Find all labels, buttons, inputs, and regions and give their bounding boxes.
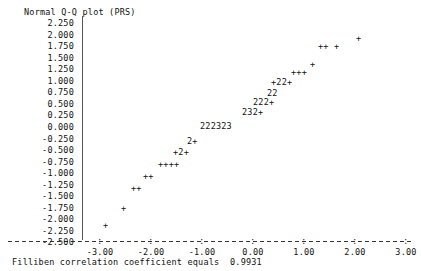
y-axis-tick-label: -2.250: [12, 227, 74, 236]
page-title: Normal Q-Q plot (PRS): [24, 8, 136, 17]
y-axis-tick-label: -0.250: [12, 135, 74, 144]
y-axis-tick-label: -2.000: [12, 215, 74, 224]
data-point-glyph-row: ++: [131, 184, 142, 193]
qq-plot-canvas: Normal Q-Q plot (PRS) 2.2502.0001.7501.5…: [0, 0, 421, 271]
y-axis-tick-label: -2.500: [12, 238, 74, 247]
data-point-glyph-row: ++ +: [318, 42, 339, 51]
data-point-glyph-row: +: [121, 204, 126, 213]
data-point-glyph-row: +++: [291, 68, 307, 77]
data-point-glyph-row: 22: [267, 89, 278, 98]
y-axis-tick-label: -1.750: [12, 204, 74, 213]
x-axis-tick-mark: :: [403, 237, 404, 246]
y-axis-tick-label: -1.500: [12, 192, 74, 201]
x-axis-tick-label: 3.00: [395, 248, 416, 257]
data-point-glyph-row: 222323: [200, 122, 232, 131]
y-axis-tick-label: -0.500: [12, 146, 74, 155]
y-axis-line: [82, 16, 83, 240]
x-axis-tick-label: 0.00: [242, 248, 263, 257]
y-axis-tick-label: 2.250: [12, 19, 74, 28]
filliben-coefficient-note: Filliben correlation coefficient equals …: [12, 258, 262, 267]
data-point-glyph-row: ++: [143, 172, 154, 181]
y-axis-tick-label: 1.500: [12, 54, 74, 63]
data-point-glyph-row: +: [310, 60, 315, 69]
x-axis-tick-mark: :: [199, 237, 200, 246]
y-axis-tick-label: 1.750: [12, 42, 74, 51]
data-point-glyph-row: +: [356, 34, 361, 43]
x-axis-tick-label: 1.00: [293, 248, 314, 257]
x-axis-tick-mark: :: [352, 237, 353, 246]
y-axis-tick-label: 0.500: [12, 100, 74, 109]
x-axis-tick-label: -2.00: [138, 248, 165, 257]
data-point-glyph-row: +22+: [271, 78, 292, 87]
x-axis-tick-label: -3.00: [87, 248, 114, 257]
y-axis-tick-label: 0.250: [12, 111, 74, 120]
x-axis-tick-label: -1.00: [189, 248, 216, 257]
x-axis-tick-mark: :: [97, 237, 98, 246]
y-axis-tick-label: -1.000: [12, 169, 74, 178]
data-point-glyph-row: 2+: [187, 137, 198, 146]
x-axis-tick-mark: :: [301, 237, 302, 246]
y-axis-tick-label: 0.750: [12, 88, 74, 97]
y-axis-tick-label: 1.250: [12, 65, 74, 74]
data-point-glyph-row: 222+: [253, 98, 274, 107]
x-axis-tick-mark: :: [250, 237, 251, 246]
y-axis-tick-label: 1.000: [12, 77, 74, 86]
x-axis-tick-mark: :: [148, 237, 149, 246]
y-axis-tick-label: 0.000: [12, 123, 74, 132]
data-point-glyph-row: 232+: [242, 108, 263, 117]
y-axis-tick-label: 2.000: [12, 31, 74, 40]
data-point-glyph-row: +: [103, 221, 108, 230]
y-axis-tick-label: -1.250: [12, 181, 74, 190]
x-axis-tick-label: 2.00: [344, 248, 365, 257]
y-axis-tick-label: -0.750: [12, 158, 74, 167]
data-point-glyph-row: ++++: [158, 160, 179, 169]
data-point-glyph-row: +2+: [173, 148, 189, 157]
